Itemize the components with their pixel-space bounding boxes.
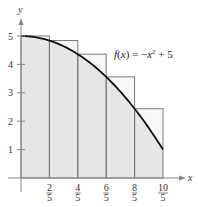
function-label: f(x) = −x2 + 5: [114, 48, 173, 61]
y-tick-label: 5: [8, 31, 13, 42]
x-tick-denominator: 5: [132, 192, 137, 203]
y-tick-label: 4: [8, 59, 13, 70]
chart: x y 12345 25456585105 f(x) = −x2 + 5: [0, 0, 198, 207]
x-axis-label: x: [187, 172, 193, 183]
y-tick-label: 3: [8, 87, 13, 98]
x-tick-denominator: 5: [47, 192, 52, 203]
x-tick-denominator: 5: [161, 192, 166, 203]
y-axis-label: y: [17, 4, 23, 15]
y-axis-arrow-icon: [19, 18, 24, 25]
x-tick-denominator: 5: [75, 192, 80, 203]
y-tick-label: 1: [8, 144, 13, 155]
y-tick-label: 2: [8, 116, 13, 127]
x-axis-arrow-icon: [179, 176, 186, 181]
x-ticks: 25456585105: [46, 182, 168, 203]
x-tick-denominator: 5: [104, 192, 109, 203]
